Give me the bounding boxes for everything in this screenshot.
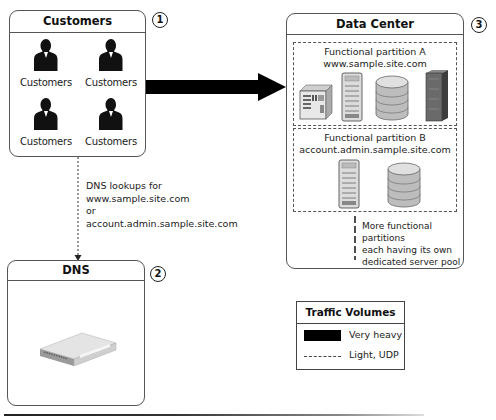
- customer-person-4: Customers: [81, 97, 141, 147]
- person-icon: [98, 38, 124, 72]
- partition-b: Functional partition B account.admin.sam…: [293, 128, 457, 212]
- dashed-line-swatch-icon: [304, 356, 341, 357]
- bottom-divider: [4, 414, 424, 416]
- data-center-box-title: Data Center: [287, 14, 463, 35]
- legend-title: Traffic Volumes: [297, 302, 404, 324]
- network-appliance-icon: [38, 327, 118, 367]
- dns-lookup-dashed-arrow-icon: [73, 157, 83, 263]
- tower-server-icon: [341, 72, 365, 122]
- customer-person-1: Customers: [16, 38, 76, 88]
- database-icon: [386, 162, 422, 208]
- customer-label: Customers: [16, 77, 76, 88]
- partition-b-label: Functional partition B account.admin.sam…: [294, 132, 456, 156]
- step-number-2: 2: [150, 266, 166, 282]
- person-icon: [98, 97, 124, 131]
- tower-server-icon: [338, 159, 362, 209]
- database-icon: [374, 75, 410, 121]
- customer-label: Customers: [81, 136, 141, 147]
- customer-person-2: Customers: [81, 38, 141, 88]
- data-center-box: Data Center Functional partition A www.s…: [286, 13, 464, 269]
- partition-a-label: Functional partition A www.sample.site.c…: [294, 46, 456, 70]
- step-number-1: 1: [152, 12, 168, 28]
- more-partitions-dash-icon: [353, 216, 357, 260]
- legend-item-light-udp: Light, UDP: [304, 350, 404, 362]
- dns-box-title: DNS: [8, 261, 144, 281]
- customer-label: Customers: [81, 77, 141, 88]
- solid-line-swatch-icon: [304, 330, 341, 341]
- dns-box: DNS: [7, 260, 145, 406]
- legend-label: Light, UDP: [349, 349, 399, 360]
- server-unit-icon: [298, 83, 334, 121]
- legend-label: Very heavy: [349, 329, 402, 340]
- step-number-3: 3: [471, 17, 487, 33]
- customer-label: Customers: [16, 136, 76, 147]
- partition-a: Functional partition A www.sample.site.c…: [293, 42, 457, 126]
- customers-box: Customers Customers Customers Customers …: [9, 10, 146, 157]
- legend-item-very-heavy: Very heavy: [304, 330, 404, 342]
- person-icon: [33, 38, 59, 72]
- person-icon: [33, 97, 59, 131]
- rack-server-icon: [424, 69, 450, 123]
- more-partitions-note: More functional partitions each having i…: [362, 220, 463, 268]
- traffic-volumes-legend: Traffic Volumes Very heavy Light, UDP: [296, 301, 405, 370]
- dns-lookup-note: DNS lookups for www.sample.site.com or a…: [86, 180, 238, 230]
- customers-box-title: Customers: [10, 11, 145, 33]
- customer-person-3: Customers: [16, 97, 76, 147]
- heavy-traffic-arrow-icon: [146, 73, 286, 103]
